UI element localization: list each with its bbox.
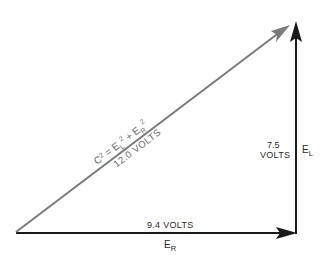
el-value-line2: VOLTS [260,150,290,160]
el-value-line1: 7.5 [267,140,280,150]
el-vector [290,21,302,234]
er-label: ER [164,239,177,253]
er-value: 9.4 VOLTS [147,220,194,230]
hypotenuse-arrowhead-icon [271,25,290,42]
el-label: EL [302,144,313,158]
impedance-vector-diagram: C2 = EL2 + ER2 12.0 VOLTS 9.4 VOLTS ER 7… [0,0,332,264]
